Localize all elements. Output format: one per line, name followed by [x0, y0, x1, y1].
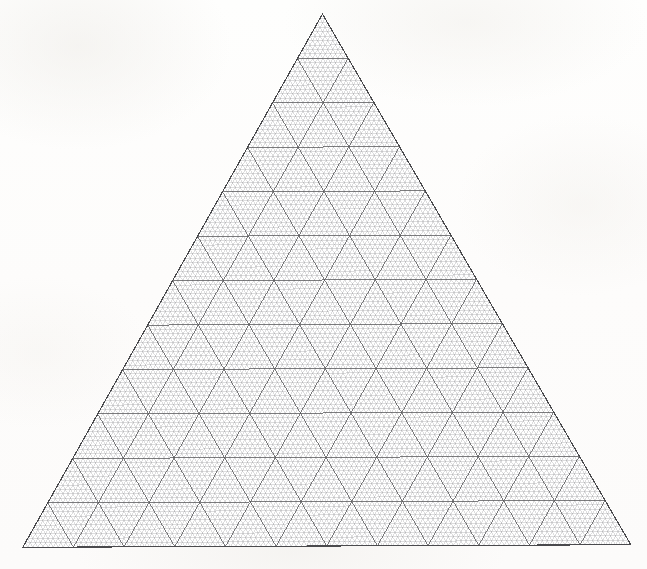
grid-paper-page [0, 0, 647, 569]
triangular-grid-chart [0, 0, 647, 569]
grid-scene [20, 13, 630, 548]
